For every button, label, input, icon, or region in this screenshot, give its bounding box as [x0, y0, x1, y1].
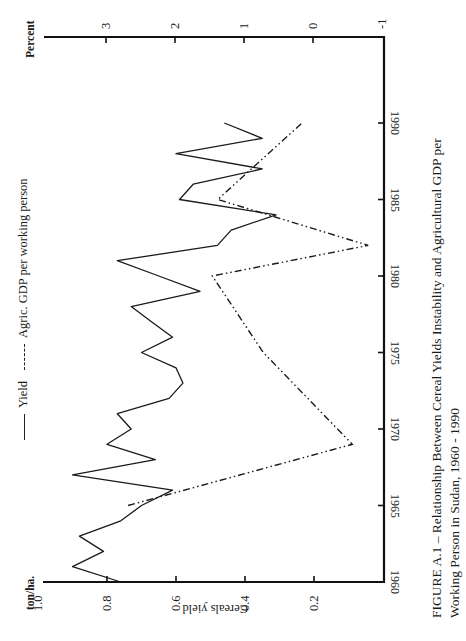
percent-tick-label: -1: [375, 19, 390, 29]
chart-axes: [43, 36, 385, 583]
year-tick-label: 1965: [387, 494, 402, 518]
legend-label-yield: Yield: [16, 381, 30, 408]
year-tick-label: 1970: [387, 417, 402, 441]
figure-caption-line1: FIGURE A.1 – Relationship Between Cereal…: [428, 138, 445, 618]
chart-lines: [73, 123, 369, 582]
year-tick-label: 1990: [387, 111, 402, 135]
left-axis-title: Cereals yield: [182, 601, 248, 616]
legend-dashdot-line-icon: [24, 344, 25, 370]
yield-tick-label: 0.8: [100, 595, 115, 611]
percent-tick-label: 0: [306, 23, 321, 29]
percent-tick-label: 2: [168, 23, 183, 29]
percent-tick-label: 1: [237, 23, 252, 29]
right-axis-label: Percent: [24, 21, 36, 58]
year-tick-label: 1985: [387, 188, 402, 212]
figure-caption-line2: Working Person in Sudan, 1960 - 1990: [446, 408, 463, 618]
legend-label-gdp: Agric. GDP per working person: [16, 178, 30, 338]
legend-gdp: Agric. GDP per working person: [16, 178, 31, 370]
percent-tick-label: 3: [99, 23, 114, 29]
legend-solid-line-icon: [24, 414, 25, 440]
legend-yield: Yield: [16, 381, 31, 440]
yield-tick-label: 0.2: [307, 595, 322, 611]
yield-series-line: [73, 123, 277, 582]
left-axis-unit: ton/ha.: [24, 576, 36, 610]
year-tick-label: 1980: [387, 264, 402, 288]
year-tick-label: 1960: [387, 570, 402, 594]
gdp-series-line: [128, 123, 368, 506]
year-tick-label: 1975: [387, 341, 402, 365]
chart: [0, 0, 466, 641]
